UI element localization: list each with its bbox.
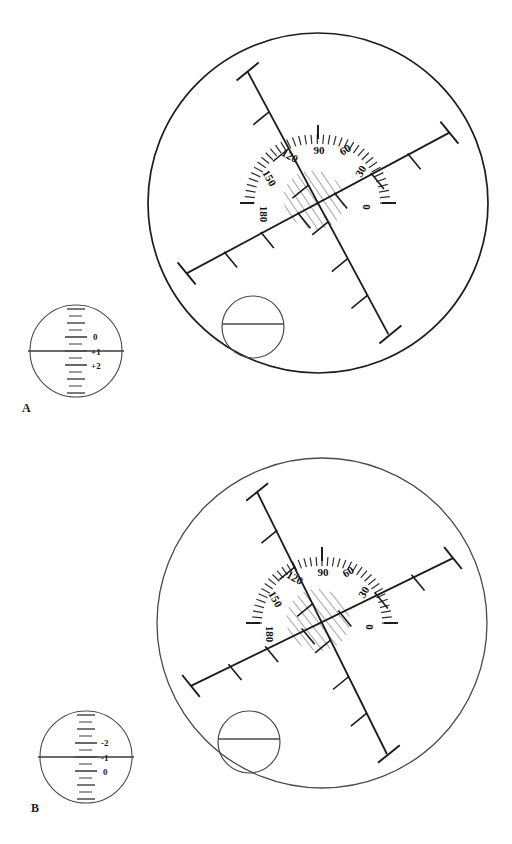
reticle-inset-circle: [218, 711, 280, 773]
figure-root: A 0 +1 +2: [0, 0, 512, 844]
protractor-label-0: 0: [360, 204, 372, 210]
panel-a: A 0 +1 +2: [0, 0, 512, 430]
cross-secondary-arm: [246, 483, 400, 763]
cross-secondary-arm: [237, 63, 402, 344]
panel-b: B -2 -1 0: [0, 430, 512, 844]
protractor-label-120: 120: [280, 146, 301, 165]
reflex-hatch-patch: [273, 160, 355, 240]
dial-label-plus1: +1: [91, 347, 101, 357]
protractor-label-180: 180: [264, 626, 276, 643]
panel-a-reticle: 0 30 60 90 120 150 180: [142, 28, 502, 388]
panel-b-dial: -2 -1 0: [34, 705, 144, 811]
protractor-label-0: 0: [363, 624, 375, 630]
protractor-label-30: 30: [356, 584, 372, 600]
panel-a-dial: 0 +1 +2: [24, 299, 134, 405]
protractor-label-60: 60: [340, 563, 356, 579]
reflex-hatch-patch: [276, 578, 361, 662]
protractor-label-150: 150: [266, 589, 285, 610]
reticle-inset-circle: [222, 296, 284, 358]
protractor-label-180: 180: [258, 206, 270, 223]
protractor-label-150: 150: [260, 168, 279, 189]
dial-tick-group: [65, 309, 87, 393]
dial-label-minus2: -2: [101, 738, 109, 748]
dial-tick-group: [75, 715, 97, 799]
panel-b-reticle: 0 30 60 90 120 150 180: [150, 453, 500, 803]
dial-label-plus2: +2: [91, 361, 101, 371]
protractor-label-90: 90: [318, 566, 330, 578]
protractor-label-90: 90: [314, 144, 326, 156]
dial-label-minus1: -1: [101, 753, 109, 763]
dial-label-0: 0: [103, 767, 108, 777]
dial-label-0: 0: [93, 332, 98, 342]
